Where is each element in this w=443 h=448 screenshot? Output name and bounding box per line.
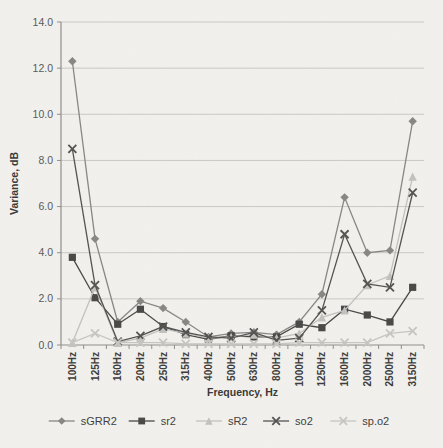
y-tick-label: 8.0 (38, 154, 53, 166)
y-tick-label: 6.0 (38, 200, 53, 212)
square-marker (296, 321, 303, 328)
x-tick-label: 3150Hz (407, 352, 418, 386)
x-tick-label: 250Hz (158, 352, 169, 381)
square-marker (114, 321, 121, 328)
legend-label: sGRR2 (81, 415, 117, 427)
chart-canvas: 0.02.04.06.08.010.012.014.0100Hz125Hz160… (0, 0, 443, 448)
x-axis-title: Frequency, Hz (207, 386, 278, 398)
legend-label: sr2 (161, 415, 176, 427)
x-tick-label: 125Hz (90, 352, 101, 381)
square-marker (364, 311, 371, 318)
x-tick-label: 500Hz (226, 352, 237, 381)
x-tick-label: 1000Hz (294, 352, 305, 386)
variance-line-chart: 0.02.04.06.08.010.012.014.0100Hz125Hz160… (0, 0, 443, 448)
x-tick-label: 2000Hz (362, 352, 373, 386)
x-tick-label: 400Hz (203, 352, 214, 381)
square-marker (69, 254, 76, 261)
x-tick-label: 1600Hz (339, 352, 350, 386)
legend-label: sR2 (228, 415, 248, 427)
square-marker (318, 324, 325, 331)
x-tick-label: 100Hz (67, 352, 78, 381)
y-tick-label: 14.0 (33, 16, 54, 28)
y-tick-label: 2.0 (38, 292, 53, 304)
y-tick-label: 10.0 (33, 108, 54, 120)
legend-label: sp.o2 (362, 415, 389, 427)
x-tick-label: 800Hz (271, 352, 282, 381)
x-tick-label: 200Hz (135, 352, 146, 381)
y-tick-label: 12.0 (33, 62, 54, 74)
x-tick-label: 160Hz (112, 352, 123, 381)
y-axis-title: Variance, dB (8, 152, 20, 215)
legend-label: so2 (295, 415, 313, 427)
square-marker (409, 284, 416, 291)
x-tick-label: 630Hz (248, 352, 259, 381)
x-tick-label: 1250Hz (316, 352, 327, 386)
square-marker (138, 418, 145, 425)
y-tick-label: 4.0 (38, 246, 53, 258)
x-tick-label: 315Hz (180, 352, 191, 381)
x-tick-label: 2500Hz (384, 352, 395, 386)
square-marker (386, 318, 393, 325)
square-marker (137, 306, 144, 313)
y-tick-label: 0.0 (38, 339, 53, 351)
